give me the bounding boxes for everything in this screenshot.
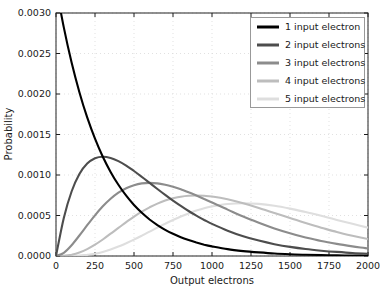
probability-chart: 025050075010001250150017502000 0.00000.0… (0, 0, 380, 297)
x-tick-label: 1500 (278, 260, 302, 271)
x-tick-label: 1750 (317, 260, 341, 271)
y-tick-label: 0.0030 (18, 7, 51, 18)
legend-item-label: 5 input electrons (285, 93, 365, 104)
y-tick-label: 0.0010 (18, 169, 51, 180)
x-tick-label: 500 (125, 260, 143, 271)
chart-figure: 025050075010001250150017502000 0.00000.0… (0, 0, 380, 297)
y-tick-label: 0.0005 (18, 210, 51, 221)
y-axis-label: Probability (3, 107, 14, 160)
x-tick-label: 1000 (200, 260, 224, 271)
x-tick-labels: 025050075010001250150017502000 (53, 260, 380, 271)
x-tick-label: 0 (53, 260, 59, 271)
y-tick-label: 0.0020 (18, 88, 51, 99)
legend: 1 input electron2 input electrons3 input… (251, 18, 366, 108)
x-tick-label: 750 (164, 260, 182, 271)
legend-item-label: 3 input electrons (285, 57, 365, 68)
y-tick-label: 0.0015 (18, 129, 51, 140)
legend-item-label: 1 input electron (285, 21, 360, 32)
y-tick-label: 0.0000 (18, 250, 51, 261)
x-tick-label: 250 (86, 260, 104, 271)
legend-item-label: 2 input electrons (285, 39, 365, 50)
y-tick-labels: 0.00000.00050.00100.00150.00200.00250.00… (18, 7, 51, 261)
legend-item-label: 4 input electrons (285, 75, 365, 86)
x-tick-label: 2000 (356, 260, 380, 271)
y-tick-label: 0.0025 (18, 48, 51, 59)
x-tick-label: 1250 (239, 260, 263, 271)
x-axis-label: Output electrons (170, 275, 254, 286)
